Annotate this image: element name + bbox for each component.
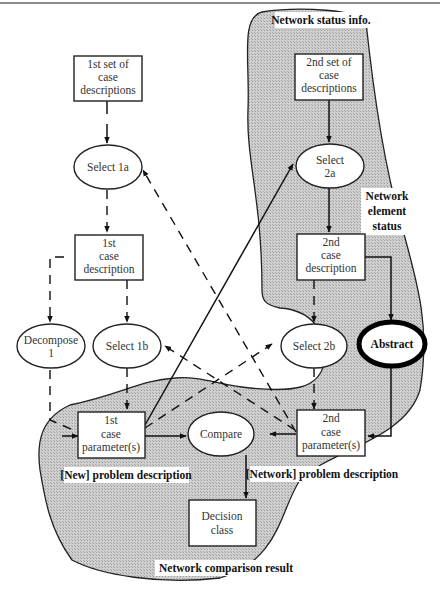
svg-text:case: case [321, 249, 341, 261]
node-select2a [296, 144, 364, 188]
node-decision [189, 500, 256, 546]
svg-text:descriptions: descriptions [80, 84, 136, 97]
svg-text:Select 1a: Select 1a [87, 161, 129, 173]
svg-text:case: case [98, 71, 118, 83]
svg-text:case: case [99, 250, 119, 262]
svg-text:class: class [211, 524, 234, 536]
svg-text:Select 2b: Select 2b [293, 340, 336, 352]
svg-text:Decompose: Decompose [24, 334, 78, 347]
svg-text:1st: 1st [102, 237, 116, 249]
svg-text:Decision: Decision [202, 510, 243, 522]
svg-text:1st set of: 1st set of [87, 58, 129, 70]
label-network-element-3: status [373, 220, 402, 232]
label-network-status: Network status info. [271, 14, 370, 26]
label-network-problem: [Network] problem description [246, 468, 399, 481]
svg-text:Select: Select [316, 154, 345, 166]
svg-text:descriptions: descriptions [301, 82, 357, 95]
svg-text:description: description [305, 262, 356, 275]
svg-text:2nd set of: 2nd set of [306, 56, 352, 68]
svg-text:parameter(s): parameter(s) [302, 439, 360, 452]
label-network-element-2: element [368, 205, 406, 217]
label-new-problem: [New] problem description [60, 469, 192, 482]
svg-text:Abstract: Abstract [371, 338, 414, 350]
svg-text:2nd: 2nd [322, 412, 340, 424]
svg-text:1: 1 [48, 347, 54, 359]
node-decompose1 [17, 324, 85, 368]
svg-text:2a: 2a [325, 167, 336, 179]
svg-text:case: case [321, 426, 341, 438]
svg-text:Compare: Compare [200, 428, 242, 441]
svg-text:case: case [101, 428, 121, 440]
svg-text:description: description [83, 263, 134, 276]
edge [50, 257, 64, 322]
svg-text:parameter(s): parameter(s) [82, 441, 140, 454]
label-network-element-1: Network [366, 190, 409, 202]
svg-text:1st: 1st [104, 414, 118, 426]
svg-text:Select 1b: Select 1b [106, 340, 149, 352]
svg-text:case: case [319, 69, 339, 81]
svg-text:2nd: 2nd [322, 236, 340, 248]
label-comparison-result: Network comparison result [159, 562, 293, 575]
case-comparison-diagram: Network status info. Network element sta… [0, 0, 448, 591]
